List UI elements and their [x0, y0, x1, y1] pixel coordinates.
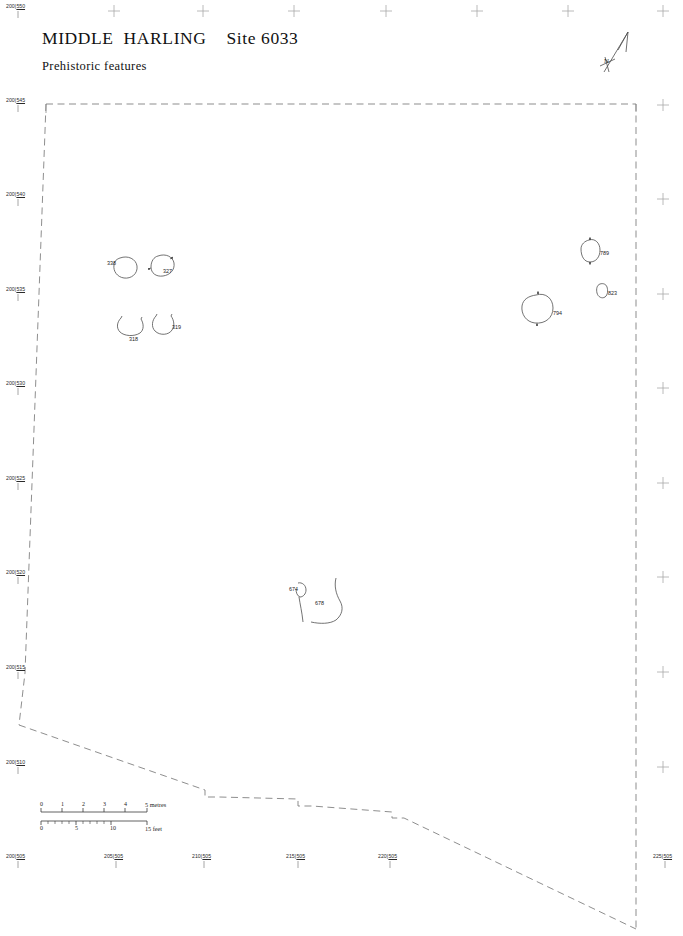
feature-789 [581, 237, 600, 265]
grid-cross-icon [657, 193, 669, 205]
grid-cross-icon [197, 5, 209, 17]
scale-metric-tick-label-3: 3 [103, 801, 106, 807]
grid-reference-label: 200|510 [6, 760, 25, 765]
feature-label-319: 319 [172, 325, 181, 330]
feature-319-tick-right [171, 314, 172, 316]
grid-cross-icon [657, 666, 669, 678]
scale-metric-tick-label-2: 2 [82, 801, 85, 807]
grid-easting: 200 [6, 475, 15, 481]
excavation-boundary [19, 104, 636, 929]
feature-label-678: 678 [315, 601, 324, 606]
grid-reference-label: 200|505 [6, 854, 25, 859]
scale-metric-tick-label-1: 1 [61, 801, 64, 807]
feature-318 [117, 316, 143, 336]
grid-northing: 535 [16, 286, 25, 292]
site-plan-page: MIDDLE HARLING Site 6033 Prehistoric fea… [0, 0, 683, 936]
grid-cross-icon [657, 761, 669, 773]
feature-789-section-dot-s [589, 262, 591, 264]
plan-drawing [0, 0, 683, 936]
feature-674-tail [299, 597, 303, 622]
grid-reference-label: 200|525 [6, 476, 25, 481]
scale-metric-tick-label-0: 0 [40, 801, 43, 807]
grid-northing: 505 [296, 853, 305, 859]
grid-cross-icon [380, 5, 392, 17]
grid-easting: 220 [378, 853, 387, 859]
grid-reference-label: 220|505 [378, 854, 397, 859]
title-block: MIDDLE HARLING Site 6033 Prehistoric fea… [42, 28, 542, 74]
grid-reference-label: 205|505 [104, 854, 123, 859]
grid-easting: 200 [6, 191, 15, 197]
scale-imperial-tick-label-5: 5 [75, 825, 78, 831]
grid-northing: 505 [388, 853, 397, 859]
grid-northing: 520 [16, 569, 25, 575]
feature-318-tick-right [141, 317, 142, 319]
grid-reference-label: 210|505 [192, 854, 211, 859]
north-arrow-label: N [604, 57, 609, 65]
feature-label-327: 327 [163, 269, 172, 274]
grid-easting: 200 [6, 3, 15, 9]
grid-northing: 515 [16, 664, 25, 670]
grid-cross-icon [562, 5, 574, 17]
grid-cross-icon [657, 477, 669, 489]
grid-cross-icon [657, 382, 669, 394]
feature-319 [152, 314, 173, 334]
grid-northing: 550 [16, 3, 25, 9]
feature-label-789: 789 [600, 251, 609, 256]
feature-318-tick-left [121, 316, 122, 318]
feature-823 [597, 284, 608, 298]
grid-northing: 510 [16, 759, 25, 765]
grid-reference-label: 200|540 [6, 192, 25, 197]
grid-easting: 225 [653, 853, 662, 859]
grid-reference-label: 215|505 [286, 854, 305, 859]
grid-reference-label: 200|530 [6, 381, 25, 386]
grid-northing: 505 [16, 853, 25, 859]
page-title: MIDDLE HARLING Site 6033 [42, 28, 542, 49]
grid-easting: 210 [192, 853, 201, 859]
feature-789-section-dot-n [589, 238, 591, 240]
grid-reference-label: 200|550 [6, 4, 25, 9]
grid-cross-icon [657, 99, 669, 111]
grid-cross-icon [108, 5, 120, 17]
north-arrow-icon [600, 32, 628, 72]
boundary-corner-ticks [46, 104, 636, 113]
grid-easting: 200 [6, 759, 15, 765]
feature-823-outline [597, 284, 608, 298]
feature-338 [114, 257, 137, 278]
grid-northing: 505 [663, 853, 672, 859]
page-subtitle: Prehistoric features [42, 59, 542, 74]
feature-label-338: 338 [107, 261, 116, 266]
feature-label-794: 794 [553, 311, 562, 316]
feature-794-section-dot-n [537, 292, 539, 294]
scale-bar-graphic [41, 808, 147, 825]
scale-metric-tick-label-4: 4 [124, 801, 127, 807]
scale-imperial-unit-label: 15 feet [145, 825, 162, 832]
feature-318-outline [117, 318, 143, 336]
feature-789-outline [581, 240, 600, 262]
grid-easting: 200 [6, 380, 15, 386]
feature-319-tick-left [156, 314, 157, 316]
grid-tick-group [18, 11, 665, 868]
scale-metric-unit-label: 5 metres [145, 801, 166, 808]
grid-cross-icon [657, 571, 669, 583]
grid-easting: 200 [6, 97, 15, 103]
feature-794-section-dot-s [536, 324, 538, 326]
grid-northing: 540 [16, 191, 25, 197]
feature-338-outline [114, 257, 137, 278]
scale-imperial-tick-label-10: 10 [110, 825, 116, 831]
feature-327-section-dot-sw [148, 268, 150, 270]
site-number: Site 6033 [226, 28, 298, 48]
grid-reference-label: 200|515 [6, 665, 25, 670]
scale-imperial-tick-label-0: 0 [40, 825, 43, 831]
grid-northing: 505 [202, 853, 211, 859]
grid-reference-label: 200|535 [6, 287, 25, 292]
grid-easting: 200 [6, 853, 15, 859]
grid-cross-icon [471, 5, 483, 17]
grid-easting: 200 [6, 664, 15, 670]
grid-northing: 505 [114, 853, 123, 859]
feature-327-section-dot-ne [171, 257, 173, 259]
grid-cross-icon [288, 5, 300, 17]
grid-easting: 215 [286, 853, 295, 859]
feature-label-823: 823 [608, 291, 617, 296]
grid-cross-icon [657, 288, 669, 300]
grid-northing: 525 [16, 475, 25, 481]
